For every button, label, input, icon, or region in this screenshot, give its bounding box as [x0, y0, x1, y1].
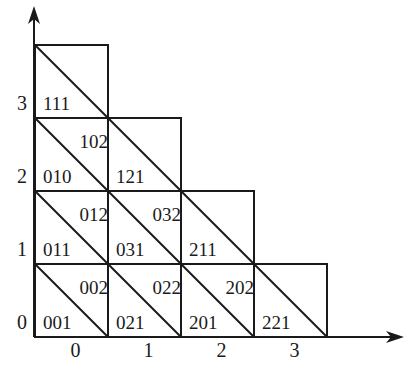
cell-label-lower: 221: [262, 312, 291, 333]
x-tick-label: 0: [71, 339, 81, 361]
y-tick-label: 0: [17, 311, 27, 333]
x-tick-label: 3: [290, 339, 300, 361]
cell-label-lower: 201: [189, 312, 218, 333]
cell-label-lower: 211: [189, 239, 217, 260]
x-tick-label: 2: [217, 339, 227, 361]
cell-label-lower: 010: [43, 166, 72, 187]
cell-label-lower: 021: [116, 312, 145, 333]
y-tick-label: 1: [17, 238, 27, 260]
cell-label-upper: 002: [80, 277, 109, 298]
x-tick-label: 1: [144, 339, 154, 361]
cell-label-upper: 032: [153, 204, 182, 225]
cell-label-upper: 012: [80, 204, 109, 225]
cell-label-lower: 111: [43, 93, 70, 114]
cell-label-upper: 022: [153, 277, 182, 298]
cell-label-lower: 011: [43, 239, 71, 260]
cell-label-upper: 202: [226, 277, 255, 298]
diagram-canvas: 1110101021210110120310322110010020210222…: [0, 0, 420, 382]
y-tick-label: 2: [17, 165, 27, 187]
cell-label-lower: 001: [43, 312, 72, 333]
cell-label-lower: 031: [116, 239, 145, 260]
y-tick-label: 3: [17, 92, 27, 114]
cell-label-lower: 121: [116, 166, 145, 187]
cell-label-upper: 102: [80, 131, 109, 152]
